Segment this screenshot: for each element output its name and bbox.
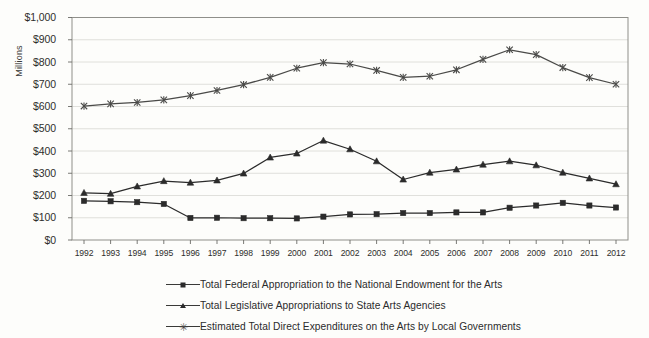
x-axis-tick-label: 2000: [283, 248, 311, 258]
legend-item: Total Federal Appropriation to the Natio…: [166, 274, 636, 295]
x-axis-tick-label: 1993: [97, 248, 125, 258]
x-axis-tick-label: 1998: [230, 248, 258, 258]
legend-label: Total Federal Appropriation to the Natio…: [200, 279, 502, 290]
x-axis-tick-label: 2007: [469, 248, 497, 258]
data-point-marker: [268, 216, 273, 221]
x-axis-tick-label: 2009: [522, 248, 550, 258]
legend-item: Total Legislative Appropriations to Stat…: [166, 295, 636, 316]
legend-label: Total Legislative Appropriations to Stat…: [200, 300, 446, 311]
data-point-marker: [454, 210, 459, 215]
x-axis-tick-label: 2003: [363, 248, 391, 258]
data-point-marker: [534, 203, 539, 208]
data-point-marker: [81, 198, 86, 203]
data-point-marker: [480, 210, 485, 215]
data-point-marker: [507, 205, 512, 210]
data-point-marker: [613, 205, 618, 210]
x-axis-tick-label: 2002: [336, 248, 364, 258]
legend-label: Estimated Total Direct Expenditures on t…: [200, 321, 521, 332]
x-axis-tick-label: 1997: [203, 248, 231, 258]
data-point-marker: [506, 158, 513, 164]
x-axis-tick-label: 1999: [256, 248, 284, 258]
legend-marker-glyph: ✳: [179, 322, 188, 331]
data-point-marker: [241, 216, 246, 221]
data-point-marker: [320, 137, 327, 143]
data-point-marker: [587, 203, 592, 208]
x-axis-tick-label: 2008: [496, 248, 524, 258]
x-axis-tick-label: 2001: [309, 248, 337, 258]
legend-marker-x-icon: ✳: [166, 321, 200, 333]
data-point-marker: [347, 212, 352, 217]
x-axis-tick-label: 2004: [389, 248, 417, 258]
x-axis-tick-label: 1996: [176, 248, 204, 258]
data-point-marker: [214, 215, 219, 220]
x-axis-tick-label: 2011: [575, 248, 603, 258]
x-axis-tick-label: 1995: [150, 248, 178, 258]
data-point-marker: [135, 200, 140, 205]
data-point-marker: [161, 201, 166, 206]
series-2: [81, 137, 620, 196]
legend-marker-glyph: [180, 303, 186, 308]
x-axis-tick-label: 2010: [549, 248, 577, 258]
x-axis-tick-label: 1992: [70, 248, 98, 258]
data-point-marker: [427, 210, 432, 215]
x-axis-tick-label: 1994: [123, 248, 151, 258]
legend-marker-triangle-icon: [166, 300, 200, 312]
chart-legend: Total Federal Appropriation to the Natio…: [166, 274, 636, 337]
data-point-marker: [374, 212, 379, 217]
data-point-marker: [480, 56, 486, 63]
data-point-marker: [188, 215, 193, 220]
x-axis-tick-label: 2005: [416, 248, 444, 258]
arts-funding-line-chart: Millions $1,000$900$800$700$600$500$400$…: [0, 0, 649, 338]
x-axis-tick-label: 2012: [602, 248, 630, 258]
data-point-marker: [294, 216, 299, 221]
x-axis-tick-label: 2006: [442, 248, 470, 258]
legend-marker-square-icon: [166, 279, 200, 291]
data-point-marker: [560, 64, 566, 71]
series-3: [81, 46, 619, 109]
legend-item: ✳Estimated Total Direct Expenditures on …: [166, 316, 636, 337]
data-point-marker: [560, 200, 565, 205]
data-point-marker: [108, 199, 113, 204]
data-point-marker: [401, 210, 406, 215]
data-point-marker: [321, 214, 326, 219]
legend-marker-glyph: [181, 282, 186, 287]
